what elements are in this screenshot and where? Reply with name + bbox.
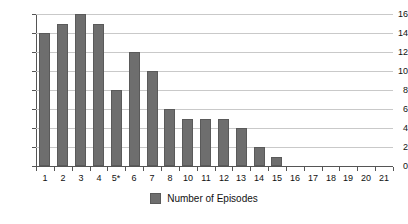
x-tick-label: 14 <box>250 173 268 183</box>
x-tick-label: 1 <box>36 173 54 183</box>
x-tick-mark <box>179 167 180 171</box>
bar <box>200 119 211 167</box>
x-tick-mark <box>36 167 37 171</box>
bar <box>236 128 247 166</box>
x-tick-mark <box>393 167 394 171</box>
x-tick-mark <box>322 167 323 171</box>
legend-swatch-number-of-episodes <box>150 193 161 204</box>
x-tick-mark <box>215 167 216 171</box>
x-tick-label: 19 <box>339 173 357 183</box>
bar <box>93 24 104 167</box>
x-tick-mark <box>250 167 251 171</box>
x-tick-mark <box>375 167 376 171</box>
x-tick-mark <box>357 167 358 171</box>
bar <box>39 33 50 166</box>
x-tick-mark <box>54 167 55 171</box>
x-tick-label: 5* <box>107 173 125 183</box>
x-tick-label: 8 <box>161 173 179 183</box>
x-tick-mark <box>143 167 144 171</box>
x-tick-label: 17 <box>304 173 322 183</box>
x-tick-mark <box>90 167 91 171</box>
x-tick-mark <box>107 167 108 171</box>
bar <box>271 157 282 167</box>
legend-label-number-of-episodes: Number of Episodes <box>167 193 258 204</box>
x-tick-label: 15 <box>268 173 286 183</box>
bar <box>75 14 86 166</box>
x-tick-mark <box>72 167 73 171</box>
bar <box>57 24 68 167</box>
bar <box>218 119 229 167</box>
x-tick-mark <box>232 167 233 171</box>
x-tick-label: 6 <box>125 173 143 183</box>
bar <box>164 109 175 166</box>
bar <box>111 90 122 166</box>
plot-area <box>36 14 393 166</box>
x-tick-mark <box>268 167 269 171</box>
bar <box>129 52 140 166</box>
bar-chart: 0246810121416 12345*67810111213141516171… <box>0 0 408 224</box>
x-tick-label: 3 <box>72 173 90 183</box>
x-tick-label: 13 <box>232 173 250 183</box>
x-tick-label: 10 <box>179 173 197 183</box>
x-tick-mark <box>339 167 340 171</box>
x-tick-label: 11 <box>197 173 215 183</box>
x-tick-label: 4 <box>90 173 108 183</box>
x-tick-mark <box>125 167 126 171</box>
x-tick-label: 21 <box>375 173 393 183</box>
x-tick-label: 7 <box>143 173 161 183</box>
x-tick-label: 18 <box>322 173 340 183</box>
x-tick-mark <box>161 167 162 171</box>
bar <box>254 147 265 166</box>
x-tick-label: 2 <box>54 173 72 183</box>
bar <box>182 119 193 167</box>
chart-legend: Number of Episodes <box>0 193 408 204</box>
x-tick-label: 20 <box>357 173 375 183</box>
x-tick-mark <box>304 167 305 171</box>
x-tick-mark <box>197 167 198 171</box>
bars-layer <box>36 14 393 166</box>
x-tick-mark <box>286 167 287 171</box>
bar <box>147 71 158 166</box>
x-tick-label: 16 <box>286 173 304 183</box>
x-tick-label: 12 <box>215 173 233 183</box>
